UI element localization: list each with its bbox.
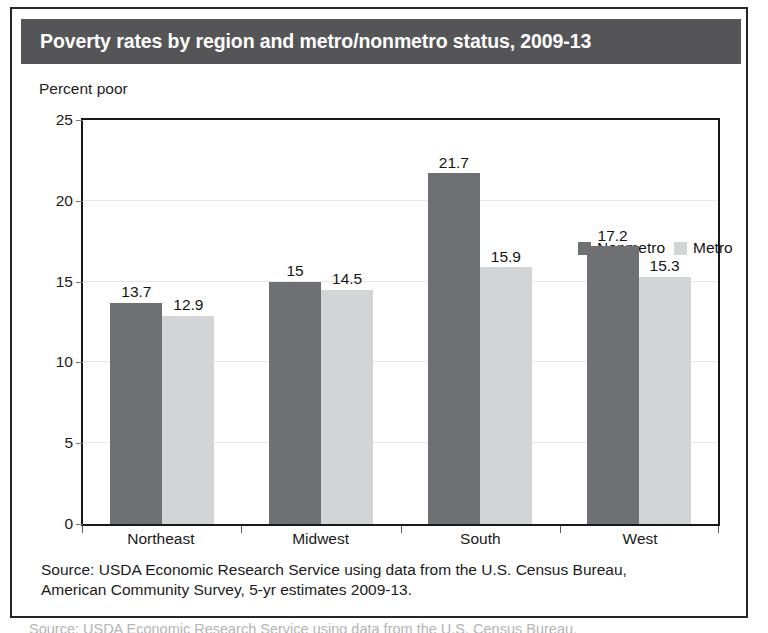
bar-value-label: 15.9 [491, 249, 521, 265]
x-axis-category-label-midwest: Midwest [241, 530, 401, 548]
y-axis-tick-label: 0 [47, 515, 73, 533]
y-axis-tick-mark [76, 524, 83, 525]
y-axis-tick-label: 20 [47, 192, 73, 210]
bar-chart: NonmetroMetro 0510152025 13.712.91514.52… [12, 9, 750, 620]
bar-midwest-metro[interactable]: 14.5 [321, 290, 373, 524]
bar-slot-nonmetro: 21.7 [428, 120, 480, 524]
source-note: Source: USDA Economic Research Service u… [41, 560, 729, 601]
x-axis-category-label-west: West [560, 530, 720, 548]
bar-slot-nonmetro: 13.7 [110, 120, 162, 524]
x-axis-category-label-northeast: Northeast [81, 530, 241, 548]
y-axis-tick-label: 5 [47, 434, 73, 452]
bar-group-south: 21.715.9 [401, 120, 560, 524]
bar-value-label: 15.3 [650, 258, 680, 274]
y-axis-tick-marks [73, 118, 83, 526]
bar-value-label: 12.9 [173, 297, 203, 313]
bar-south-metro[interactable]: 15.9 [480, 267, 532, 524]
y-axis-tick-label: 10 [47, 353, 73, 371]
bar-group-west: 17.215.3 [559, 120, 718, 524]
x-axis-category-labels: NortheastMidwestSouthWest [81, 530, 720, 548]
y-axis-tick-mark [76, 282, 83, 283]
bar-value-label: 21.7 [439, 155, 469, 171]
y-axis-tick-mark [76, 201, 83, 202]
bar-northeast-metro[interactable]: 12.9 [162, 316, 214, 524]
bar-northeast-nonmetro[interactable]: 13.7 [110, 303, 162, 524]
bar-slot-metro: 15.3 [639, 120, 691, 524]
source-note-line-1: Source: USDA Economic Research Service u… [41, 560, 729, 580]
bar-south-nonmetro[interactable]: 21.7 [428, 173, 480, 524]
bar-groups: 13.712.91514.521.715.917.215.3 [83, 120, 718, 524]
bar-west-metro[interactable]: 15.3 [639, 277, 691, 524]
y-axis-tick-mark [76, 120, 83, 121]
y-axis-tick-label: 15 [47, 273, 73, 291]
bar-value-label: 17.2 [598, 228, 628, 244]
bar-group-northeast: 13.712.9 [83, 120, 242, 524]
bar-slot-metro: 14.5 [321, 120, 373, 524]
clipped-caption-below-frame: Source: USDA Economic Research Service u… [29, 622, 759, 633]
bar-value-label: 14.5 [332, 271, 362, 287]
source-note-line-2: American Community Survey, 5-yr estimate… [41, 580, 729, 600]
source-divider [21, 556, 741, 557]
y-axis-tick-label: 25 [47, 111, 73, 129]
bar-midwest-nonmetro[interactable]: 15 [269, 282, 321, 524]
y-axis-tick-mark [76, 362, 83, 363]
bar-slot-nonmetro: 17.2 [587, 120, 639, 524]
x-axis-category-label-south: South [401, 530, 561, 548]
bar-west-nonmetro[interactable]: 17.2 [587, 246, 639, 524]
y-axis-tick-mark [76, 443, 83, 444]
bar-group-midwest: 1514.5 [242, 120, 401, 524]
bar-slot-metro: 12.9 [162, 120, 214, 524]
bar-value-label: 13.7 [121, 284, 151, 300]
y-axis-tick-labels: 0510152025 [41, 118, 73, 526]
bar-value-label: 15 [287, 263, 304, 279]
bar-slot-nonmetro: 15 [269, 120, 321, 524]
figure-frame: Poverty rates by region and metro/nonmet… [10, 7, 748, 618]
bar-slot-metro: 15.9 [480, 120, 532, 524]
